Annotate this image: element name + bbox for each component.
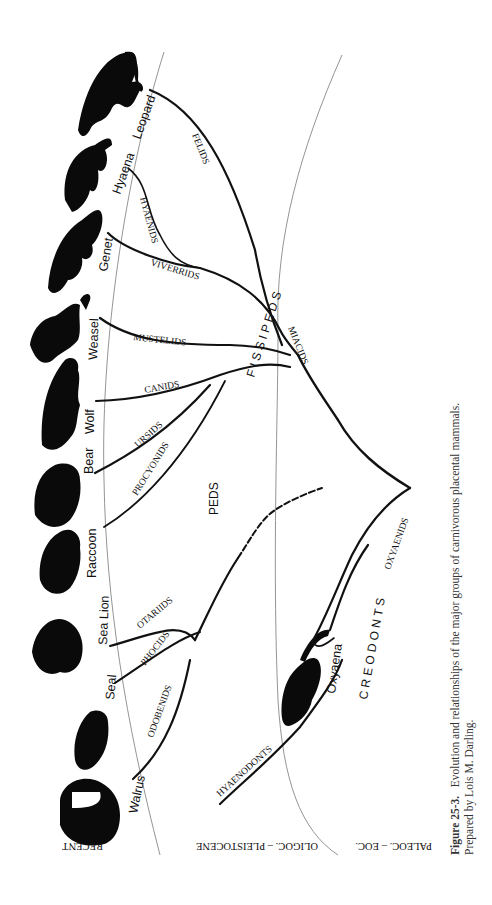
label-mustelids: MUSTELIDS [133,332,187,348]
branch-hyaenids [128,168,200,268]
figure-caption: Figure 25-3. Evolution and relationships… [448,335,476,855]
boundary-oligoc [275,55,342,855]
branch-pinniped-dashed [238,488,322,558]
phylogeny-diagram: Leopard Hyaena Genet Weasel Wolf Bear Ra… [0,0,492,905]
label-peds: PEDS [207,482,221,515]
label-sea-lion: Sea Lion [96,595,112,645]
genet-silhouette [48,210,102,293]
label-otariids: OTARIIDS [135,595,175,631]
label-oligoc-pleistocene: OLIGOC. – PLEISTOCENE [196,841,318,852]
label-bear: Bear [82,448,96,474]
label-hyaenodonts: HYAENODONTS [215,744,274,799]
oxyaena-silhouette [282,630,330,726]
walrus-silhouette [60,779,120,846]
label-raccoon: Raccoon [85,529,99,578]
branch-felids [150,90,282,345]
caption-text: Evolution and relationships of the major… [449,403,461,787]
sea-lion-silhouette [32,619,83,674]
label-seal: Seal [103,674,119,700]
label-walrus: Walrus [126,774,148,815]
label-weasel: Weasel [86,318,101,360]
figure-number: Figure 25-3. [449,796,461,855]
branch-oxyaenids [330,545,368,630]
time-boundaries [104,52,342,855]
weasel-silhouette [30,294,90,363]
label-paleoc-eoc: PALEOC. – EOC. [355,841,432,852]
bear-silhouette [34,463,80,526]
label-genet: Genet [96,236,116,272]
label-oxyaenids: OXYAENIDS [382,516,410,571]
time-labels: RECENT OLIGOC. – PLEISTOCENE PALEOC. – E… [62,841,432,852]
branch-creodonts [312,488,410,642]
caption-credit: Prepared by Lois M. Darling. [463,720,475,855]
animal-silhouettes [30,52,330,846]
raccoon-silhouette [40,530,81,594]
branch-miacids [298,355,410,488]
branch-pinniped-trunk [195,558,238,640]
label-recent: RECENT [62,841,103,852]
label-creodonts: C R E O D O N T S [356,597,388,701]
seal-silhouette [74,710,108,769]
label-viverrids: VIVERRIDS [149,257,200,281]
wolf-silhouette [42,358,80,450]
branch-canids [96,365,290,401]
label-oxyaena: Oxyaena [324,643,345,695]
label-wolf: Wolf [83,409,97,434]
label-felids: FELIDS [190,132,211,166]
label-hyaenids: HYAENIDS [138,196,160,244]
hyaena-silhouette [65,139,112,212]
